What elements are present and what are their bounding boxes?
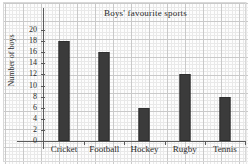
bar-slot [124, 30, 164, 141]
y-tick-label: 14 [29, 58, 37, 67]
bar [139, 108, 150, 141]
x-axis-label-rugby: Rugby [165, 144, 205, 154]
bar-slot [205, 30, 245, 141]
x-axis-label-tennis: Tennis [205, 144, 245, 154]
bar [99, 52, 110, 141]
x-axis-label-football: Football [84, 144, 124, 154]
y-tick-label: 4 [33, 114, 37, 123]
y-tick-label: 18 [29, 36, 37, 45]
y-tick-label: 2 [33, 125, 37, 134]
y-tick-label: 10 [29, 81, 37, 90]
y-tick-label: 12 [29, 69, 37, 78]
bar-chart-screenshot: Boys' favourite sports Number of boys 02… [0, 0, 251, 167]
y-axis-label: Number of boys [7, 21, 16, 101]
y-tick-label: 8 [33, 92, 37, 101]
bar [59, 41, 70, 141]
y-tick-label: 16 [29, 47, 37, 56]
x-axis-label-hockey: Hockey [124, 144, 164, 154]
bar [219, 97, 230, 141]
bar-series [44, 30, 245, 141]
x-tick-mark [245, 141, 246, 145]
bar [179, 74, 190, 141]
y-tick-label: 20 [29, 25, 37, 34]
y-tick-label: 0 [33, 136, 37, 145]
chart-title: Boys' favourite sports [104, 8, 187, 18]
y-tick-mark [41, 141, 45, 142]
x-axis-line [17, 141, 245, 142]
y-tick-label: 6 [33, 103, 37, 112]
bar-slot [44, 30, 84, 141]
x-axis-label-cricket: Cricket [44, 144, 84, 154]
bar-slot [84, 30, 124, 141]
bar-slot [165, 30, 205, 141]
x-axis-category-labels: CricketFootballHockeyRugbyTennis [44, 144, 245, 160]
